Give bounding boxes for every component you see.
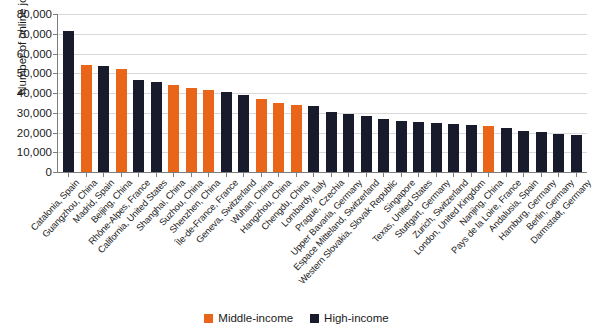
y-tick-label: 50,000	[17, 67, 52, 79]
bar	[308, 106, 319, 172]
legend-swatch-icon	[310, 314, 319, 323]
legend-label: High-income	[324, 312, 389, 324]
bar	[553, 134, 564, 173]
y-tick-label: 60,000	[17, 48, 52, 60]
legend-item-high[interactable]: High-income	[310, 312, 389, 324]
bar	[396, 121, 407, 172]
bar	[116, 69, 127, 172]
bar-slot	[200, 14, 218, 172]
bar	[98, 66, 109, 172]
bar-slot	[533, 14, 551, 172]
bar-series	[57, 14, 587, 172]
bar	[273, 103, 284, 172]
y-tick-mark	[53, 133, 57, 134]
y-tick-mark	[53, 34, 57, 35]
y-tick-label: 40,000	[17, 87, 52, 99]
bar-slot	[393, 14, 411, 172]
y-tick-label: 20,000	[17, 127, 52, 139]
bar-slot	[270, 14, 288, 172]
bar-slot	[288, 14, 306, 172]
bar	[291, 105, 302, 172]
y-tick-label: 70,000	[17, 28, 52, 40]
bar	[448, 124, 459, 172]
bar-slot	[358, 14, 376, 172]
y-tick-label: 80,000	[17, 8, 52, 20]
bar	[151, 82, 162, 172]
bar	[256, 99, 267, 172]
bar	[413, 122, 424, 172]
bar-slot	[410, 14, 428, 172]
bar	[168, 85, 179, 172]
bar	[361, 116, 372, 172]
bar-slot	[375, 14, 393, 172]
bar	[63, 31, 74, 172]
bar-slot	[235, 14, 253, 172]
y-tick-mark	[53, 14, 57, 15]
bar-slot	[78, 14, 96, 172]
y-tick-mark	[53, 113, 57, 114]
bar-slot	[428, 14, 446, 172]
bar-slot	[253, 14, 271, 172]
y-tick-label: 10,000	[17, 146, 52, 158]
bar-slot	[323, 14, 341, 172]
bar-slot	[165, 14, 183, 172]
plot-area: 80,00070,00060,00050,00040,00030,00020,0…	[57, 14, 587, 172]
bar	[466, 125, 477, 172]
y-tick-label: 30,000	[17, 107, 52, 119]
legend-item-mid[interactable]: Middle-income	[204, 312, 293, 324]
bar	[518, 131, 529, 172]
y-tick-mark	[53, 93, 57, 94]
bar-slot	[148, 14, 166, 172]
bar-slot	[113, 14, 131, 172]
y-tick-mark	[53, 152, 57, 153]
bar-slot	[305, 14, 323, 172]
bar	[238, 95, 249, 172]
bar	[536, 132, 547, 172]
bar-slot	[498, 14, 516, 172]
bar	[203, 90, 214, 172]
x-axis-labels: Catalonia, SpainGuangzhou, ChinaMadrid, …	[57, 177, 587, 295]
bar-slot	[480, 14, 498, 172]
bar	[81, 65, 92, 172]
bar-slot	[183, 14, 201, 172]
bar	[343, 114, 354, 172]
y-tick-mark	[53, 54, 57, 55]
bar-slot	[95, 14, 113, 172]
bar-slot	[130, 14, 148, 172]
legend-swatch-icon	[204, 314, 213, 323]
bar	[186, 88, 197, 172]
chart-legend: Middle-incomeHigh-income	[0, 312, 593, 324]
bar	[133, 80, 144, 172]
legend-label: Middle-income	[218, 312, 293, 324]
bar-slot	[568, 14, 586, 172]
bar-slot	[550, 14, 568, 172]
y-tick-label: 0	[46, 166, 52, 178]
bar	[571, 135, 582, 172]
bar-slot	[340, 14, 358, 172]
bar-slot	[515, 14, 533, 172]
bar	[221, 92, 232, 172]
bar	[378, 119, 389, 172]
bar	[483, 126, 494, 172]
bar-slot	[218, 14, 236, 172]
y-tick-mark	[53, 73, 57, 74]
bar	[326, 112, 337, 172]
bar-slot	[445, 14, 463, 172]
bar	[431, 123, 442, 172]
bar	[501, 128, 512, 172]
bar-chart: Number of online job postings 80,00070,0…	[0, 0, 593, 332]
bar-slot	[60, 14, 78, 172]
bar-slot	[463, 14, 481, 172]
